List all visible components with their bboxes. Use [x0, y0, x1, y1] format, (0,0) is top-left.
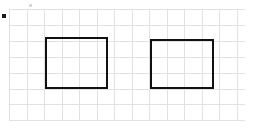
top-tick-mark: [29, 4, 32, 7]
marker-layer: [0, 0, 256, 128]
diagram-canvas: [0, 0, 256, 128]
origin-dot-marker[interactable]: [2, 14, 6, 18]
